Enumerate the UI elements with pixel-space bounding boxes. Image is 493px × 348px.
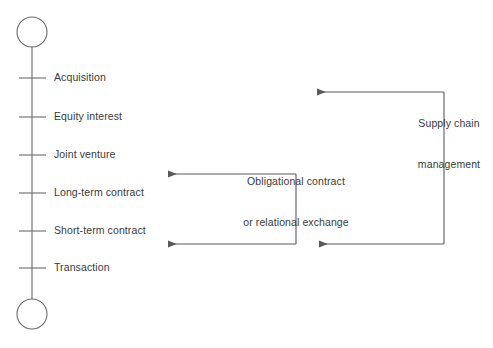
axis-label-short-term-contract: Short-term contract (54, 224, 146, 238)
supply-chain-management-label-line2: management (418, 158, 480, 172)
axis-label-joint-venture: Joint venture (54, 148, 115, 162)
axis-label-acquisition: Acquisition (54, 71, 106, 85)
supply-chain-management-label: Supply chain management (418, 90, 480, 198)
axis-bottom-circle (17, 299, 47, 329)
axis-label-long-term-contract: Long-term contract (54, 186, 144, 200)
axis-label-equity-interest: Equity interest (54, 110, 122, 124)
obligational-contract-label-line2: or relational exchange (243, 216, 349, 230)
diagram-canvas: Acquisition Equity interest Joint ventur… (0, 0, 493, 348)
axis-top-circle (17, 17, 47, 47)
supply-chain-management-label-line1: Supply chain (418, 117, 480, 131)
obligational-contract-label-line1: Obligational contract (243, 175, 349, 189)
obligational-contract-label: Obligational contract or relational exch… (243, 148, 349, 256)
governance-continuum-axis (17, 17, 47, 329)
axis-label-transaction: Transaction (54, 261, 110, 275)
